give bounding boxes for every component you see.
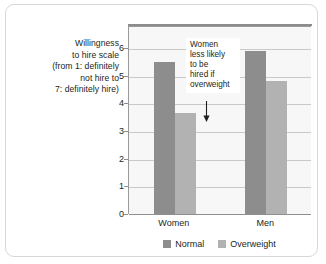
y-tick-label: 1 xyxy=(104,181,124,191)
bar-men-normal xyxy=(245,51,266,214)
chart-legend: NormalOverweight xyxy=(128,239,311,249)
bar-women-overweight xyxy=(175,113,196,214)
annotation-callout: Women less likely to be hired if overwei… xyxy=(186,38,240,93)
bar-women-normal xyxy=(154,62,175,214)
legend-swatch-icon xyxy=(218,240,226,248)
legend-label: Normal xyxy=(175,239,204,249)
legend-item-normal[interactable]: Normal xyxy=(163,239,204,249)
y-tick-label: 5 xyxy=(104,71,124,81)
annotation-line-4: hired if xyxy=(190,70,237,80)
legend-swatch-icon xyxy=(163,240,171,248)
legend-item-overweight[interactable]: Overweight xyxy=(218,239,276,249)
x-axis-label-men: Men xyxy=(256,218,274,228)
chart-card: Willingness to hire scale (from 1: defin… xyxy=(5,4,318,257)
bar-men-overweight xyxy=(266,81,287,214)
y-tick-label: 3 xyxy=(104,126,124,136)
x-axis-label-women: Women xyxy=(158,218,189,228)
legend-label: Overweight xyxy=(230,239,276,249)
y-tick-label: 6 xyxy=(104,43,124,53)
y-tick-label: 0 xyxy=(104,209,124,219)
annotation-line-2: less likely xyxy=(190,50,237,60)
annotation-line-1: Women xyxy=(190,40,237,50)
y-axis-ticks: 0123456 xyxy=(102,26,124,214)
annotation-line-5: overweight xyxy=(190,80,237,90)
y-tick-label: 4 xyxy=(104,98,124,108)
axis-baseline xyxy=(129,214,311,215)
down-arrow-icon xyxy=(202,101,211,123)
y-tick-label: 2 xyxy=(104,154,124,164)
annotation-line-3: to be xyxy=(190,60,237,70)
y-tick-mark xyxy=(124,214,128,215)
